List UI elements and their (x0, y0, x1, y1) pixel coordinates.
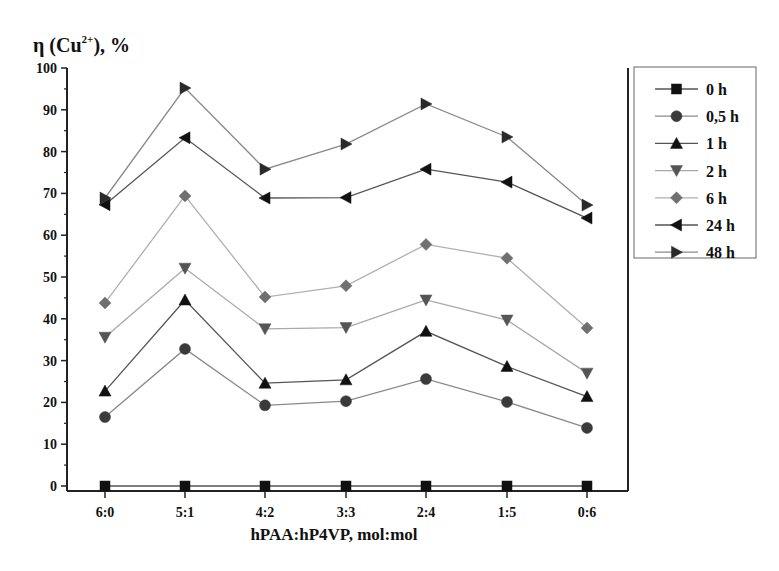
legend-box (634, 67, 756, 258)
x-tick-label: 4:2 (256, 505, 275, 520)
data-point (581, 212, 592, 224)
data-point (179, 190, 191, 202)
y-tick-label: 90 (43, 103, 57, 118)
legend: 0 h0,5 h1 h2 h6 h24 h48 h (634, 67, 756, 261)
y-axis-title-superscript: 2+ (82, 33, 94, 45)
data-point (341, 138, 352, 150)
data-point (581, 368, 593, 379)
legend-label: 24 h (706, 217, 735, 234)
x-tick-label: 0:6 (578, 505, 597, 520)
svg-text:η (Cu2+), %: η (Cu2+), % (33, 33, 130, 57)
legend-label: 48 h (706, 244, 735, 261)
data-point (420, 238, 432, 250)
y-tick-label: 70 (43, 186, 57, 201)
y-tick-label: 60 (43, 228, 57, 243)
y-axis-title-tail: ), % (93, 34, 130, 57)
legend-label: 0,5 h (706, 108, 739, 125)
data-point (421, 98, 432, 110)
y-axis-title-base: η (Cu (33, 34, 82, 57)
x-tick-label: 5:1 (176, 505, 195, 520)
data-point (340, 192, 351, 204)
data-point (502, 481, 512, 491)
data-point (179, 294, 191, 305)
legend-marker-icon (672, 84, 682, 94)
data-point (100, 412, 111, 423)
legend-label: 6 h (706, 190, 727, 207)
x-tick-label: 6:0 (96, 505, 115, 520)
data-point (99, 332, 111, 343)
x-tick-label: 2:4 (417, 505, 436, 520)
data-point (340, 280, 352, 292)
x-axis-title-text: hPAA:hP4VP, mol:mol (250, 525, 417, 544)
data-point (581, 391, 593, 402)
y-tick-label: 20 (43, 395, 57, 410)
data-point (501, 360, 513, 371)
y-tick-label: 40 (43, 312, 57, 327)
data-point (501, 176, 512, 188)
data-point (582, 199, 593, 211)
data-point (180, 481, 190, 491)
data-point (420, 163, 431, 175)
data-point (260, 400, 271, 411)
y-tick-label: 80 (43, 145, 57, 160)
y-tick-label: 0 (50, 479, 57, 494)
data-point (340, 374, 352, 385)
data-point (420, 325, 432, 336)
data-point (180, 343, 191, 354)
data-point (341, 396, 352, 407)
data-point (100, 481, 110, 491)
data-point (99, 297, 111, 309)
series-line-05h (105, 349, 587, 428)
data-point (260, 481, 270, 491)
x-axis-title: hPAA:hP4VP, mol:mol (250, 525, 417, 544)
y-axis-ticks: 0102030405060708090100 (36, 61, 67, 494)
axes (67, 68, 628, 491)
legend-label: 2 h (706, 163, 727, 180)
data-point (421, 373, 432, 384)
y-axis-title: η (Cu2+), % (33, 33, 130, 57)
data-point (582, 422, 593, 433)
legend-label: 1 h (706, 135, 727, 152)
data-point (421, 481, 431, 491)
x-tick-label: 1:5 (498, 505, 517, 520)
legend-label: 0 h (706, 81, 727, 98)
y-tick-label: 50 (43, 270, 57, 285)
data-point (582, 481, 592, 491)
data-point (259, 291, 271, 303)
series-markers (99, 82, 593, 491)
legend-marker-icon (671, 111, 682, 122)
y-tick-label: 100 (36, 61, 57, 76)
y-tick-label: 10 (43, 437, 57, 452)
y-tick-label: 30 (43, 354, 57, 369)
data-point (259, 192, 270, 204)
data-point (341, 481, 351, 491)
x-tick-label: 3:3 (337, 505, 356, 520)
x-axis-ticks: 6:05:14:23:32:41:50:6 (96, 491, 597, 520)
chart: η (Cu2+), % 0102030405060708090100 6:05:… (0, 0, 779, 571)
data-point (260, 163, 271, 175)
data-point (502, 396, 513, 407)
data-point (501, 315, 513, 326)
